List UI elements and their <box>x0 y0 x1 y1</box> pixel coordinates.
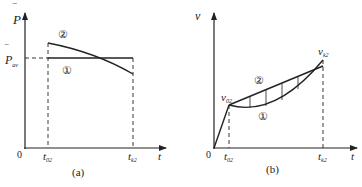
panel-b-v02-label: v02 <box>221 91 232 104</box>
panel-b-vk2-label: vk2 <box>318 45 329 58</box>
panel-a-label-1: ① <box>62 64 72 76</box>
panel-a-pav-bar: ‾ <box>4 44 9 55</box>
panel-a-t02-label: t02 <box>43 150 52 163</box>
panel-a-tk2-label: tk2 <box>128 150 137 163</box>
panel-b-y-label: v <box>195 9 201 23</box>
panel-b-x-label: t <box>351 150 355 162</box>
panel-b-origin: 0 <box>206 149 211 160</box>
panel-a-y-bar: ‾ <box>12 2 17 14</box>
panel-a-origin: 0 <box>17 149 22 160</box>
panel-a-pav-label: Pav <box>4 53 18 68</box>
panel-b-caption: (b) <box>266 163 279 176</box>
panel-a-x-label: t <box>158 150 162 162</box>
diagram-canvas: P ‾ Pav ‾ ② ① 0 t02 tk2 t (a) <box>0 0 362 187</box>
panel-b-t02-label: t02 <box>224 150 233 163</box>
panel-a-y-label: P <box>12 12 21 27</box>
panel-a-label-2: ② <box>58 28 68 40</box>
panel-b-tk2-label: tk2 <box>318 150 327 163</box>
panel-b-label-1: ① <box>258 110 268 122</box>
panel-b-accel-line <box>214 105 229 148</box>
panel-b-label-2: ② <box>254 74 264 86</box>
panel-a: P ‾ Pav ‾ ② ① 0 t02 tk2 t (a) <box>4 2 166 179</box>
panel-b-curve-2-linear <box>229 66 323 105</box>
panel-b: v v02 vk2 ② ① 0 t02 tk2 t (b) <box>195 9 357 176</box>
panel-a-caption: (a) <box>72 166 85 179</box>
panel-b-curve-1-concave <box>229 60 323 107</box>
